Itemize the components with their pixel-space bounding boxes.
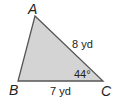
triangle-diagram: A B C 8 yd 7 yd 44° [0,0,118,102]
vertex-label-a: A [27,1,37,17]
side-label-bc: 7 yd [50,85,71,97]
angle-label-c: 44° [74,68,91,80]
vertex-label-b: B [9,82,18,98]
side-label-ac: 8 yd [72,38,93,50]
vertex-label-c: C [101,83,112,99]
